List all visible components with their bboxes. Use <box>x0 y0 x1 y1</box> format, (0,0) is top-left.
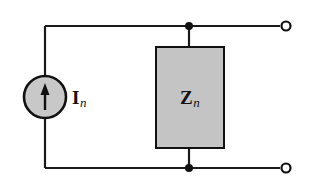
terminal-top <box>282 22 291 31</box>
junction-bottom <box>185 164 193 172</box>
current-source-label: In <box>72 87 86 110</box>
terminal-bottom <box>282 164 291 173</box>
junction-top <box>185 22 193 30</box>
current-source <box>24 76 66 118</box>
norton-equivalent-circuit: In Zn <box>0 0 312 181</box>
